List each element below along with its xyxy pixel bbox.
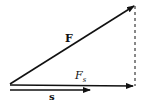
component-label: Fs <box>75 69 86 84</box>
displacement-label: s <box>49 91 55 102</box>
vector-diagram: F Fs s <box>0 0 148 105</box>
component-label-sub: s <box>83 76 87 84</box>
vector-drawing <box>0 0 148 105</box>
component-vector-arrow <box>10 85 133 86</box>
component-label-main: F <box>75 69 83 82</box>
force-vector-arrow <box>10 6 134 84</box>
force-label: F <box>65 32 73 45</box>
